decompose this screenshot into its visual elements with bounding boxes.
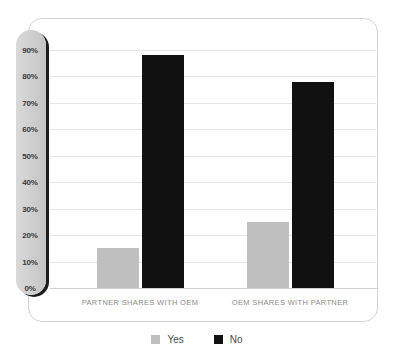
y-axis-tick-label: 20% bbox=[16, 231, 44, 240]
chart-legend: YesNo bbox=[0, 334, 394, 345]
bar-no-1[interactable] bbox=[292, 82, 334, 288]
legend-swatch-icon bbox=[151, 335, 160, 344]
y-axis-tick-label: 80% bbox=[16, 72, 44, 81]
y-axis-tick-label: 70% bbox=[16, 98, 44, 107]
y-axis-tick-label: 10% bbox=[16, 257, 44, 266]
plot-area bbox=[50, 50, 378, 288]
y-axis-tick-label: 40% bbox=[16, 178, 44, 187]
y-axis: 0%10%20%30%40%50%60%70%80%90% bbox=[16, 30, 46, 295]
category-label: PARTNER SHARES WITH OEM bbox=[60, 298, 220, 307]
axis-baseline bbox=[50, 288, 378, 289]
legend-item-yes[interactable]: Yes bbox=[151, 334, 183, 345]
bar-yes-0[interactable] bbox=[97, 248, 139, 288]
legend-label: No bbox=[230, 334, 243, 345]
legend-item-no[interactable]: No bbox=[214, 334, 243, 345]
y-axis-tick-label: 50% bbox=[16, 151, 44, 160]
category-label: OEM SHARES WITH PARTNER bbox=[210, 298, 370, 307]
bar-yes-1[interactable] bbox=[247, 222, 289, 288]
bar-no-0[interactable] bbox=[142, 55, 184, 288]
y-axis-tick-label: 0% bbox=[16, 284, 44, 293]
gridline bbox=[50, 76, 378, 77]
legend-label: Yes bbox=[167, 334, 183, 345]
legend-swatch-icon bbox=[214, 335, 223, 344]
y-axis-tick-label: 60% bbox=[16, 125, 44, 134]
y-axis-tick-label: 90% bbox=[16, 46, 44, 55]
gridline bbox=[50, 50, 378, 51]
y-axis-tick-label: 30% bbox=[16, 204, 44, 213]
